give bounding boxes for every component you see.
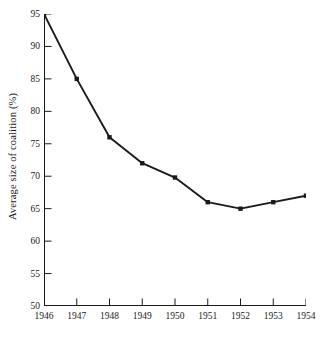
x-axis-ticks <box>44 299 306 306</box>
data-point-marker <box>107 135 111 139</box>
chart-canvas <box>44 14 306 306</box>
y-axis-tick-label: 65 <box>31 204 41 214</box>
y-axis-tick-label: 55 <box>31 269 41 279</box>
y-axis-tick-label: 60 <box>31 236 41 246</box>
y-axis-tick-label: 80 <box>31 106 41 116</box>
plot-area: 50556065707580859095 1946194719481949195… <box>44 14 306 306</box>
data-point-marker <box>206 200 210 204</box>
data-point-marker <box>173 175 177 179</box>
x-axis-tick-label: 1950 <box>166 311 185 321</box>
y-axis-tick-label: 50 <box>31 301 41 311</box>
y-axis-tick-label: 75 <box>31 139 41 149</box>
y-axis-ticks <box>45 14 52 306</box>
data-point-marker <box>140 161 144 165</box>
x-axis-tick-label: 1952 <box>231 311 250 321</box>
x-axis-tick-label: 1949 <box>133 311 152 321</box>
y-axis-tick-label: 95 <box>31 9 41 19</box>
x-axis-tick-label: 1947 <box>67 311 86 321</box>
x-axis-tick-label: 1948 <box>100 311 119 321</box>
y-axis-tick-label: 85 <box>31 74 41 84</box>
y-axis-title: Average size of coalition (%) <box>8 92 19 219</box>
data-point-marker <box>75 77 79 81</box>
x-axis-tick-label: 1953 <box>264 311 283 321</box>
chart-figure: Average size of coalition (%) 5055606570… <box>0 0 322 341</box>
data-point-markers <box>44 14 306 211</box>
data-point-marker <box>238 206 242 210</box>
data-point-marker <box>304 193 306 197</box>
y-axis-title-container: Average size of coalition (%) <box>0 0 26 312</box>
data-point-marker <box>271 200 275 204</box>
data-point-marker <box>44 14 46 16</box>
axis-spines <box>44 14 306 306</box>
y-axis-tick-label: 90 <box>31 41 41 51</box>
x-axis-tick-label: 1951 <box>198 311 217 321</box>
x-axis-tick-label: 1946 <box>35 311 54 321</box>
x-axis-tick-label: 1954 <box>297 311 316 321</box>
y-axis-tick-label: 70 <box>31 171 41 181</box>
